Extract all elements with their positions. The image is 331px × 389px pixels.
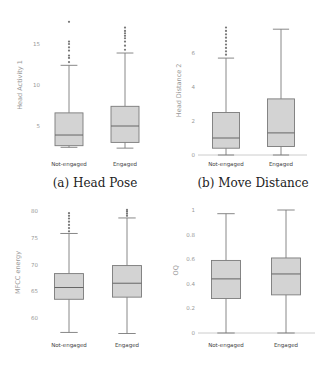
y-tick-label: 75 [31, 235, 38, 241]
y-tick-label: 10 [33, 82, 40, 88]
y-tick-label: 5 [37, 123, 41, 129]
outlier-point [225, 30, 227, 32]
outlier-point [225, 43, 227, 45]
outlier-point [68, 224, 70, 226]
outlier-point [68, 217, 70, 219]
outlier-point [68, 40, 70, 42]
outlier-point [68, 43, 70, 45]
outlier-point [225, 50, 227, 52]
y-tick-label: 0 [192, 330, 196, 336]
y-tick-label: 0.4 [186, 281, 195, 287]
outlier-point [124, 45, 126, 47]
outlier-point [68, 61, 70, 63]
y-tick-label: 65 [31, 288, 38, 294]
y-axis-label: OQ [172, 265, 180, 275]
outlier-point [68, 57, 70, 59]
iqr-box [212, 260, 241, 298]
x-category-label: Not-engaged [51, 342, 87, 349]
iqr-box [113, 266, 142, 298]
outlier-point [68, 21, 70, 23]
y-axis-label: MFCC energy [14, 251, 22, 294]
box-not-engaged [55, 212, 84, 332]
outlier-point [68, 221, 70, 223]
box-engaged [113, 209, 142, 334]
iqr-box [111, 106, 139, 142]
iqr-box [272, 258, 301, 295]
chart-head-pose: Head Activity 151015Not-engagedEngaged (… [0, 0, 165, 190]
box-engaged [272, 210, 301, 333]
outlier-point [126, 213, 128, 215]
outlier-point [225, 33, 227, 35]
outlier-point [124, 32, 126, 34]
chart-move-distance: Head Distance 20246Not-engagedEngaged (b… [165, 0, 331, 190]
boxplot-head-pose: Head Activity 151015Not-engagedEngaged [0, 0, 165, 190]
outlier-point [124, 37, 126, 39]
y-tick-label: 0.2 [186, 305, 195, 311]
x-category-label: Engaged [269, 161, 293, 168]
outlier-point [126, 209, 128, 211]
box-not-engaged [212, 214, 241, 333]
x-category-label: Engaged [115, 342, 139, 349]
chart-mfcc-energy: MFCC energy6065707580Not-engagedEngaged … [0, 190, 165, 350]
outlier-point [124, 49, 126, 51]
outlier-point [68, 227, 70, 229]
x-category-label: Engaged [113, 161, 137, 168]
y-tick-label: 0 [192, 152, 196, 158]
outlier-point [225, 54, 227, 56]
outlier-point [68, 49, 70, 51]
y-tick-label: 60 [31, 315, 38, 321]
box-not-engaged [55, 21, 83, 148]
y-tick-label: 2 [192, 118, 196, 124]
box-engaged [111, 27, 139, 149]
caption-head-pose: (a) Head Pose [53, 176, 138, 190]
outlier-point [225, 40, 227, 42]
box-engaged [268, 29, 295, 155]
iqr-box [213, 113, 240, 149]
box-not-engaged [213, 26, 240, 155]
y-tick-label: 6 [192, 50, 196, 56]
outlier-point [124, 40, 126, 42]
y-tick-label: 0.8 [186, 232, 195, 238]
y-axis-label: Head Distance 2 [175, 64, 183, 118]
outlier-point [126, 215, 128, 217]
boxplot-mfcc-energy: MFCC energy6065707580Not-engagedEngaged [0, 190, 165, 350]
outlier-point [124, 30, 126, 32]
outlier-point [68, 46, 70, 48]
iqr-box [268, 99, 295, 147]
y-tick-label: 70 [31, 262, 38, 268]
x-category-label: Not-engaged [208, 342, 244, 349]
boxplot-move-distance: Head Distance 20246Not-engagedEngaged [165, 0, 331, 190]
outlier-point [68, 54, 70, 56]
y-tick-label: 4 [192, 84, 196, 90]
x-category-label: Not-engaged [208, 161, 244, 168]
boxplot-oq: OQ00.20.40.60.81Not-engagedEngaged [165, 190, 331, 350]
y-tick-label: 1 [192, 207, 196, 213]
iqr-box [55, 113, 83, 146]
caption-move-distance: (b) Move Distance [197, 176, 308, 190]
outlier-point [124, 35, 126, 37]
outlier-point [225, 26, 227, 28]
outlier-point [68, 215, 70, 217]
iqr-box [55, 274, 84, 300]
outlier-point [225, 47, 227, 49]
outlier-point [68, 230, 70, 232]
y-tick-label: 80 [31, 208, 38, 214]
y-tick-label: 0.6 [186, 256, 195, 262]
y-tick-label: 15 [33, 41, 40, 47]
outlier-point [124, 27, 126, 29]
x-category-label: Engaged [274, 342, 298, 349]
x-category-label: Not-engaged [51, 161, 87, 168]
outlier-point [225, 37, 227, 39]
chart-oq: OQ00.20.40.60.81Not-engagedEngaged (d) O… [165, 190, 331, 350]
y-axis-label: Head Activity 1 [16, 60, 24, 110]
outlier-point [68, 212, 70, 214]
